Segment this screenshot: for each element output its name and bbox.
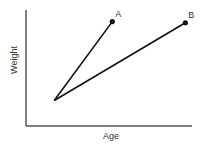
chart: Weight Age AB <box>0 0 202 146</box>
point-label-a: A <box>115 9 121 19</box>
series-layer: AB <box>54 9 194 101</box>
endpoint-b <box>183 20 188 25</box>
point-label-b: B <box>188 10 194 20</box>
x-axis-label: Age <box>103 131 119 141</box>
series-line-b <box>54 23 185 101</box>
endpoint-a <box>110 19 115 24</box>
y-axis-label: Weight <box>9 46 19 74</box>
series-line-a <box>54 22 112 101</box>
